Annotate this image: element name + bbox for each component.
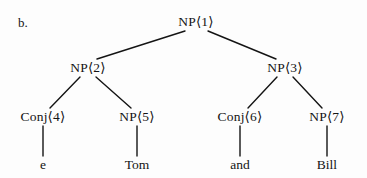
tree-node-n6: Conj⟨6⟩ [218, 110, 263, 124]
tree-terminal-t2: Tom [125, 158, 150, 172]
tree-node-n7: NP⟨7⟩ [309, 110, 345, 124]
tree-node-n4: Conj⟨4⟩ [21, 110, 66, 124]
tree-edge [96, 77, 131, 108]
tree-edge [248, 77, 277, 108]
tree-terminal-t4: Bill [317, 158, 337, 172]
tree-edge [208, 31, 276, 59]
figure-panel: b. NP⟨1⟩NP⟨2⟩NP⟨3⟩Conj⟨4⟩NP⟨5⟩Conj⟨6⟩NP⟨… [0, 0, 367, 178]
tree-node-n2: NP⟨2⟩ [70, 61, 106, 75]
tree-terminal-t1: e [40, 158, 46, 172]
tree-edge [293, 77, 322, 108]
tree-node-n5: NP⟨5⟩ [119, 110, 155, 124]
tree-terminal-t3: and [230, 158, 250, 172]
tree-edge [97, 31, 185, 59]
tree-node-n1: NP⟨1⟩ [178, 15, 214, 29]
tree-node-n3: NP⟨3⟩ [267, 61, 303, 75]
tree-edge [50, 77, 80, 108]
